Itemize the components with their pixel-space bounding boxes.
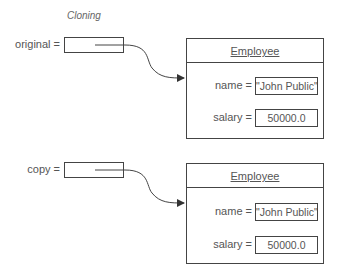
employee-class-header: Employee bbox=[187, 164, 323, 188]
name-field-label: name = bbox=[192, 79, 252, 91]
original-variable-label: original = bbox=[0, 38, 60, 50]
employee-object-original: Employee name = "John Public" salary = 5… bbox=[186, 38, 324, 139]
employee-class-header: Employee bbox=[187, 39, 323, 63]
copy-variable-label: copy = bbox=[0, 163, 60, 175]
salary-field-value: 50000.0 bbox=[255, 109, 318, 127]
copy-pointer-box bbox=[64, 162, 124, 178]
employee-object-copy: Employee name = "John Public" salary = 5… bbox=[186, 163, 324, 264]
salary-field-value: 50000.0 bbox=[255, 236, 318, 254]
name-field-label: name = bbox=[192, 205, 252, 217]
name-field-value: "John Public" bbox=[255, 203, 318, 221]
salary-field-label: salary = bbox=[192, 238, 252, 250]
salary-field-label: salary = bbox=[192, 111, 252, 123]
name-field-value: "John Public" bbox=[255, 77, 318, 95]
original-pointer-box bbox=[64, 37, 124, 53]
